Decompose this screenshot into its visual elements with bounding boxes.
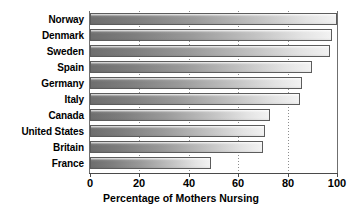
bar-norway <box>90 13 337 25</box>
bar-sweden <box>90 45 330 57</box>
bar-france <box>90 157 211 169</box>
x-tick-label: 0 <box>70 177 110 189</box>
bar-row <box>90 123 337 139</box>
x-tick-label: 20 <box>119 177 159 189</box>
category-label: Sweden <box>0 44 84 60</box>
bar-spain <box>90 61 312 73</box>
bar-canada <box>90 109 270 121</box>
category-label: Spain <box>0 60 84 76</box>
bar-germany <box>90 77 302 89</box>
category-label: Italy <box>0 92 84 108</box>
x-tick-label: 60 <box>218 177 258 189</box>
bar-row <box>90 91 337 107</box>
category-label: Germany <box>0 76 84 92</box>
category-label: Canada <box>0 108 84 124</box>
bar-chart: NorwayDenmarkSwedenSpainGermanyItalyCana… <box>0 0 362 215</box>
plot-area <box>90 11 337 173</box>
bar-row <box>90 59 337 75</box>
bar-denmark <box>90 29 332 41</box>
bar-row <box>90 27 337 43</box>
bar-row <box>90 139 337 155</box>
axis-line-bottom <box>89 173 338 174</box>
category-label: United States <box>0 124 84 140</box>
bar-row <box>90 75 337 91</box>
category-label: Norway <box>0 12 84 28</box>
category-label: Britain <box>0 140 84 156</box>
bar-britain <box>90 141 263 153</box>
bar-row <box>90 11 337 27</box>
category-axis-labels: NorwayDenmarkSwedenSpainGermanyItalyCana… <box>0 12 84 172</box>
bar-united-states <box>90 125 265 137</box>
x-axis-title: Percentage of Mothers Nursing <box>0 192 362 204</box>
category-label: France <box>0 156 84 172</box>
axis-line-right <box>337 11 338 173</box>
bar-row <box>90 155 337 171</box>
category-label: Denmark <box>0 28 84 44</box>
x-tick-label: 100 <box>317 177 357 189</box>
bar-row <box>90 107 337 123</box>
bar-row <box>90 43 337 59</box>
x-tick-label: 80 <box>268 177 308 189</box>
bar-italy <box>90 93 300 105</box>
x-tick-label: 40 <box>169 177 209 189</box>
